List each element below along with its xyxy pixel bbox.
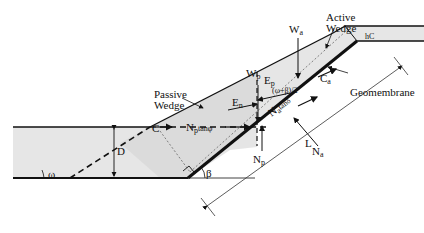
En-main: E xyxy=(232,96,239,108)
geomembrane-label: Geomembrane xyxy=(350,87,415,98)
Ca-label: Ca xyxy=(320,73,331,86)
passive-wedge-label: Passive Wedge xyxy=(154,89,187,111)
En-sub: n xyxy=(239,101,243,110)
En-label: En xyxy=(232,97,243,110)
omega-label: ω xyxy=(48,169,55,180)
Np-tan-label: Nptanφ xyxy=(186,122,212,135)
C-label: C xyxy=(152,123,159,134)
Np-main: N xyxy=(253,153,261,165)
Na-main: N xyxy=(312,145,320,157)
Wp-label: Wp xyxy=(246,68,260,81)
geomembrane-leader xyxy=(328,67,348,73)
Nptan-tail: tanφ xyxy=(198,124,212,133)
Ca-sub: a xyxy=(327,77,331,86)
beta-label: β xyxy=(206,168,212,179)
Na-label: Na xyxy=(312,146,324,159)
Ep-main: E xyxy=(264,74,271,86)
L-label: L xyxy=(305,138,312,149)
Natan-arrow xyxy=(298,97,317,106)
Na-sub: a xyxy=(320,150,324,159)
hC-label: hC xyxy=(365,33,374,41)
Wa-main: W xyxy=(289,23,299,35)
diagram-graphics xyxy=(0,0,424,233)
Nptan-main: N xyxy=(186,121,194,133)
Wp-main: W xyxy=(246,67,256,79)
active-wedge-text: Active Wedge xyxy=(326,11,356,34)
passive-wedge-text: Passive Wedge xyxy=(154,88,187,111)
wedge-diagram: Passive Wedge Active Wedge Geomembrane W… xyxy=(0,0,424,233)
Wp-sub: p xyxy=(256,72,260,81)
Np-sub: p xyxy=(261,158,265,167)
Np-label: Np xyxy=(253,154,265,167)
active-wedge-label: Active Wedge xyxy=(326,12,356,34)
Wa-sub: a xyxy=(299,28,303,37)
D-label: D xyxy=(117,146,125,157)
Wa-label: Wa xyxy=(289,24,303,37)
